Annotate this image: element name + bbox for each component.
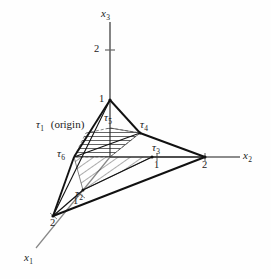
tick-label-x2-1: 1 [154,160,159,171]
vertex-label-tau6: τ6 [57,148,65,162]
vertex-apex-dot [108,98,111,101]
axis-label-x3: x3 [101,8,110,22]
tick-label-x3-2: 2 [94,44,99,55]
figure-container: x3 x2 x1 2 1 1 2 1 2 τ1 (origin) τ2 τ3 τ… [0,0,271,279]
tick-label-x1-2: 2 [50,218,55,229]
vertex-label-tau2: τ2 [75,188,83,202]
origin-note: (origin) [51,118,85,130]
simplex-diagram [0,0,271,279]
vertex-label-tau3: τ3 [152,142,160,156]
vertex-label-tau5: τ5 [104,112,112,126]
tick-label-x2-2: 2 [202,160,207,171]
vertex-label-tau1: τ1 (origin) [36,119,84,133]
vertex-label-tau4: τ4 [140,119,148,133]
axis-label-x1: x1 [24,252,33,266]
axis-label-x2: x2 [243,150,252,164]
edge-apex-tau4 [110,100,140,133]
tick-label-x3-1: 1 [99,94,104,105]
edge-tau4-x2two [140,133,205,157]
